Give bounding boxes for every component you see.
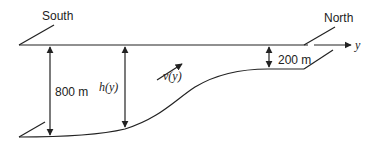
depth-h-label: h(y) — [99, 80, 118, 94]
channel-cross-section-diagram: y 800 m h(y) 200 m v(y) South North — [0, 0, 377, 143]
velocity-label: v(y) — [163, 69, 182, 83]
depth-200-label: 200 m — [278, 53, 311, 67]
north-surface-slant — [304, 27, 335, 45]
y-axis-label: y — [354, 38, 361, 52]
north-label: North — [324, 11, 353, 25]
south-label: South — [42, 9, 73, 23]
south-bottom-slant — [19, 122, 45, 137]
south-surface-slant — [19, 25, 54, 45]
depth-800-label: 800 m — [55, 85, 88, 99]
channel-bottom-curve — [19, 69, 304, 137]
